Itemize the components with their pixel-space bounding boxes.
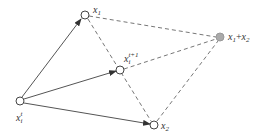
- edge-xit-to-x1: [22, 19, 81, 97]
- label-xit1: xit+1: [123, 51, 139, 66]
- node-x2: [150, 121, 158, 129]
- node-x1: [81, 11, 89, 19]
- node-xit: [16, 97, 24, 105]
- vector-diagram: xit x1 xit+1 x2 x1+x2: [0, 0, 260, 139]
- label-xit: xit: [15, 110, 23, 125]
- solid-edges: [22, 19, 150, 124]
- label-x1: x1: [92, 4, 101, 17]
- edge-x1-to-sum: [89, 16, 216, 37]
- edge-xit-to-xit1: [24, 71, 116, 99]
- dashed-edges: [88, 16, 218, 121]
- label-sum: x1+x2: [227, 31, 250, 44]
- edge-x2-to-sum: [157, 41, 218, 121]
- diagram-svg: xit x1 xit+1 x2 x1+x2: [0, 0, 260, 139]
- label-x2: x2: [160, 120, 169, 133]
- node-xit1: [116, 66, 124, 74]
- edge-xit-to-x2: [24, 103, 150, 124]
- node-sum: [216, 33, 224, 41]
